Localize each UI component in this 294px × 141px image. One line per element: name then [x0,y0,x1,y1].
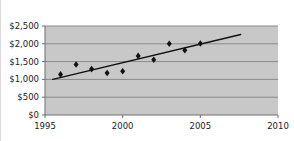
x-axis-tick-label: 2010 [267,121,289,131]
y-axis-tick-label: $500 [17,92,39,102]
x-axis-tick-label: 2005 [190,121,212,131]
x-axis [45,115,278,118]
y-axis-tick-label: $2,000 [9,39,39,49]
y-axis-tick-labels: $0$500$1,000$1,500$2,000$2,500 [9,21,39,120]
y-axis-tick-label: $0 [28,110,39,120]
x-axis-tick-label: 2000 [112,121,134,131]
y-axis-tick-label: $1,000 [9,74,39,84]
y-axis-tick-label: $2,500 [9,21,39,31]
x-axis-tick-label: 1995 [34,121,56,131]
y-axis-tick-label: $1,500 [9,57,39,67]
x-axis-tick-labels: 1995200020052010 [34,121,289,131]
scatter-chart: $0$500$1,000$1,500$2,000$2,500 199520002… [0,0,294,141]
chart-figure: $0$500$1,000$1,500$2,000$2,500 199520002… [0,0,294,141]
plot-background [45,26,278,115]
y-axis [42,26,45,115]
